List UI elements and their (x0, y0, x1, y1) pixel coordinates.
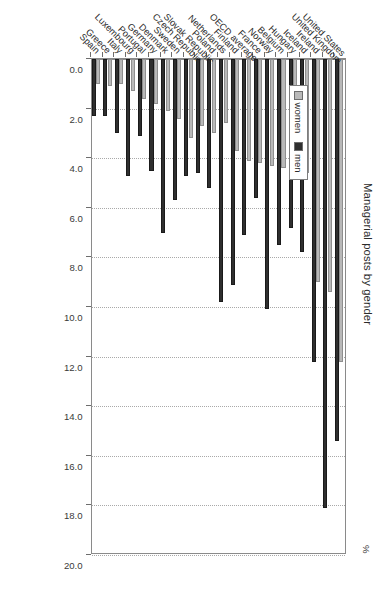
bar-men (231, 59, 235, 285)
bar-men (219, 59, 223, 302)
bar-group (229, 59, 241, 555)
bar-men (161, 59, 165, 233)
bar-men (196, 59, 200, 173)
bar-women (224, 59, 228, 123)
value-axis-tick-label: 0.0 (69, 64, 82, 75)
bar-women (189, 59, 193, 138)
bar-group (136, 59, 148, 555)
category-axis-tick (322, 52, 323, 57)
bar-group (125, 59, 137, 555)
bar-group (206, 59, 218, 555)
bar-group (264, 59, 276, 555)
bar-women (328, 59, 332, 292)
bar-women (131, 59, 135, 91)
value-axis-tick (86, 207, 91, 208)
bar-group (90, 59, 102, 555)
bar-women (212, 59, 216, 133)
bar-group (194, 59, 206, 555)
value-axis-tick (86, 504, 91, 505)
bar-men (265, 59, 269, 309)
legend-item-men: men (293, 142, 304, 172)
page-title: Managerial posts by gender (362, 183, 374, 325)
bar-women (270, 59, 274, 166)
bar-group (241, 59, 253, 555)
legend-item-women: women (293, 91, 304, 133)
axis-unit-label: % (361, 545, 372, 554)
value-axis-tick (86, 157, 91, 158)
value-axis-tick-label: 16.0 (64, 460, 83, 471)
bar-women (282, 59, 286, 168)
bar-women (154, 59, 158, 104)
bar-chart-figure: Managerial posts by gender % women men 0… (0, 0, 388, 614)
bar-women (142, 59, 146, 99)
bar-women (235, 59, 239, 151)
bar-group (275, 59, 287, 555)
value-axis-tick-label: 14.0 (64, 411, 83, 422)
legend-label-women: women (293, 103, 304, 134)
value-axis-tick (86, 256, 91, 257)
value-axis-tick-label: 2.0 (69, 113, 82, 124)
bar-men (254, 59, 258, 198)
bar-men (207, 59, 211, 188)
square-swatch-dark-icon (294, 142, 303, 151)
bar-women (166, 59, 170, 111)
value-axis-tick-label: 20.0 (64, 560, 83, 571)
bar-men (126, 59, 130, 176)
bar-group (102, 59, 114, 555)
value-axis-tick (86, 405, 91, 406)
bar-group (333, 59, 345, 555)
value-axis-tick-label: 10.0 (64, 312, 83, 323)
bar-group (218, 59, 230, 555)
category-axis-tick (125, 52, 126, 57)
bar-men (323, 59, 327, 508)
bar-group (171, 59, 183, 555)
bar-women (339, 59, 343, 362)
value-axis-tick (86, 108, 91, 109)
legend-label-men: men (293, 154, 304, 173)
value-axis-tick (86, 306, 91, 307)
value-axis-tick-label: 12.0 (64, 361, 83, 372)
bar-group (113, 59, 125, 555)
bar-men (103, 59, 107, 116)
chart-legend: women men (289, 85, 308, 180)
bar-men (138, 59, 142, 136)
bar-group (148, 59, 160, 555)
value-axis-tick-label: 6.0 (69, 212, 82, 223)
bar-women (177, 59, 181, 119)
bar-men (173, 59, 177, 200)
bar-men (115, 59, 119, 133)
category-axis-tick (183, 52, 184, 57)
value-axis-tick-label: 8.0 (69, 262, 82, 273)
rotated-figure-frame: Managerial posts by gender % women men 0… (0, 0, 388, 614)
value-axis-tick-label: 4.0 (69, 163, 82, 174)
bar-group (310, 59, 322, 555)
value-axis-tick (86, 554, 91, 555)
bar-group (160, 59, 172, 555)
bar-men (242, 59, 246, 235)
value-axis-tick (86, 356, 91, 357)
value-axis-tick-label: 18.0 (64, 510, 83, 521)
bar-women (96, 59, 100, 84)
bar-men (312, 59, 316, 362)
square-swatch-light-icon (294, 91, 303, 100)
bar-women (200, 59, 204, 126)
bar-women (108, 59, 112, 86)
bar-women (247, 59, 251, 161)
bar-men (149, 59, 153, 171)
gridline (92, 555, 345, 556)
bar-women (119, 59, 123, 84)
value-axis-tick (86, 455, 91, 456)
bar-group (252, 59, 264, 555)
value-axis-tick (86, 58, 91, 59)
bar-men (335, 59, 339, 441)
bar-women (258, 59, 262, 163)
bar-women (316, 59, 320, 282)
bar-group (183, 59, 195, 555)
bar-group (322, 59, 334, 555)
bar-men (92, 59, 96, 116)
bar-men (277, 59, 281, 245)
bar-men (184, 59, 188, 176)
